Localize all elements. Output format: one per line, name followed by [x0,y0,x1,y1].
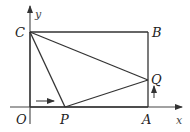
point-label-C: C [15,25,25,40]
y-axis-label: y [34,8,42,21]
point-label-B: B [151,25,162,40]
x-axis-label: x [176,114,183,127]
geometry-diagram: y x C B Q A P O [0,0,190,132]
point-label-O: O [16,112,27,127]
segment-CQ [30,32,148,80]
point-label-Q: Q [151,72,162,87]
point-label-A: A [141,112,151,127]
segment-CP [30,32,65,107]
point-label-P: P [59,112,69,127]
segment-PQ [65,80,148,107]
